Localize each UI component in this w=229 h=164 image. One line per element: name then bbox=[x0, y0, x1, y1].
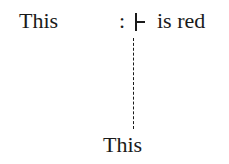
predicate-label: is red bbox=[157, 10, 205, 32]
turnstile-horizontal-stroke bbox=[135, 21, 145, 23]
colon-separator: : bbox=[119, 10, 125, 32]
turnstile-icon bbox=[135, 13, 146, 31]
subject-bottom-label: This bbox=[103, 134, 142, 156]
dashed-connector-line bbox=[133, 38, 134, 129]
subject-top-label: This bbox=[19, 10, 58, 32]
